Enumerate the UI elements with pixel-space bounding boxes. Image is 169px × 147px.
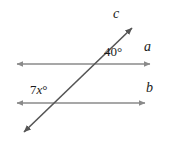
line-label-c: c	[113, 7, 119, 21]
line-label-b: b	[146, 81, 153, 95]
angle-label-7x-degrees: 7x°	[30, 83, 47, 96]
angle-7x-degree-symbol: °	[42, 82, 47, 97]
geometry-diagram: c a b 40° 7x°	[0, 0, 169, 147]
line-label-a: a	[144, 40, 151, 54]
angle-label-40-degrees: 40°	[104, 45, 122, 58]
geometry-canvas	[0, 0, 169, 147]
